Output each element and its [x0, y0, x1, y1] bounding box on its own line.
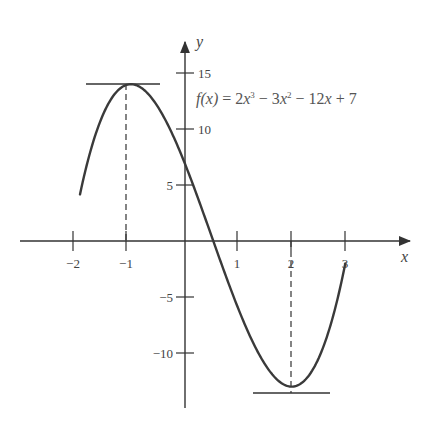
function-formula: f(x) = 2x3 − 3x2 − 12x + 7 [196, 90, 357, 108]
formula-part: − 12 [291, 90, 324, 107]
formula-part: + 7 [332, 90, 357, 107]
x-tick-label: −1 [119, 256, 133, 271]
x-tick-label: 1 [234, 256, 241, 271]
x-tick-labels: −2 −1 1 2 3 [66, 256, 348, 271]
formula-var: x [280, 90, 287, 107]
x-tick-label: −2 [66, 256, 80, 271]
y-tick-label: 10 [198, 122, 211, 137]
x-axis-label: x [400, 248, 408, 265]
y-tick-label: 15 [198, 66, 211, 81]
y-axis-label: y [194, 33, 204, 51]
y-tick-label: −5 [159, 290, 173, 305]
y-tick-label: −10 [153, 346, 173, 361]
formula-lhs: f(x) [196, 90, 218, 107]
chart-canvas: −2 −1 1 2 3 15 10 5 −5 −10 y x [0, 0, 441, 422]
formula-var: x [325, 90, 332, 107]
formula-part: = 2 [218, 90, 243, 107]
function-curve [80, 84, 345, 386]
y-tick-label: 5 [167, 178, 174, 193]
formula-part: − 3 [255, 90, 280, 107]
